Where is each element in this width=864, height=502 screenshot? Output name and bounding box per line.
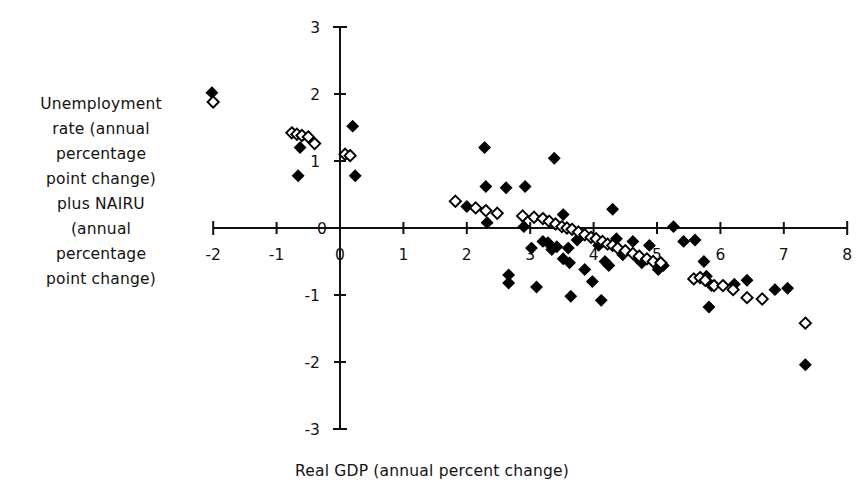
data-point-filled — [689, 234, 700, 245]
x-tick-label: 2 — [462, 246, 472, 264]
data-point-filled — [769, 284, 780, 295]
data-point-filled — [703, 301, 714, 312]
data-point-open — [492, 208, 503, 219]
x-tick-label: 1 — [398, 246, 408, 264]
x-tick-label: 6 — [715, 246, 725, 264]
y-tick-label: 1 — [310, 153, 320, 171]
data-point-filled — [668, 221, 679, 232]
data-point-filled — [503, 277, 514, 288]
data-point-filled — [347, 121, 358, 132]
data-point-open — [741, 292, 752, 303]
data-point-filled — [782, 283, 793, 294]
data-point-filled — [800, 359, 811, 370]
data-point-filled — [480, 181, 491, 192]
data-point-filled — [587, 276, 598, 287]
data-point-open — [757, 293, 768, 304]
data-point-filled — [479, 142, 490, 153]
y-tick-label: 3 — [310, 19, 320, 37]
data-point-open — [450, 196, 461, 207]
data-point-open — [480, 205, 491, 216]
data-point-filled — [531, 281, 542, 292]
data-point-open — [208, 96, 219, 107]
data-point-filled — [607, 204, 618, 215]
data-point-open — [800, 318, 811, 329]
x-tick-label: 0 — [335, 246, 345, 264]
data-point-filled — [518, 221, 529, 232]
data-point-filled — [549, 153, 560, 164]
y-tick-label: -1 — [305, 287, 320, 305]
y-tick-label: -2 — [305, 354, 320, 372]
y-tick-label: 0 — [317, 220, 327, 238]
data-point-filled — [481, 217, 492, 228]
data-point-filled — [520, 181, 531, 192]
y-tick-label: 2 — [310, 86, 320, 104]
scatter-chart-figure: Unemployment rate (annual percentage poi… — [0, 0, 864, 502]
data-point-open — [517, 210, 528, 221]
data-point-filled — [563, 243, 574, 254]
x-tick-label: 7 — [779, 246, 789, 264]
data-point-filled — [350, 170, 361, 181]
x-tick-label: -2 — [205, 246, 220, 264]
data-point-filled — [678, 236, 689, 247]
plot-area: -2-1012345678-3-2-10123 — [0, 0, 864, 502]
data-point-filled — [579, 264, 590, 275]
data-point-filled — [501, 182, 512, 193]
data-point-filled — [698, 256, 709, 267]
data-point-filled — [293, 170, 304, 181]
data-point-filled — [294, 142, 305, 153]
data-point-filled — [596, 295, 607, 306]
data-point-filled — [627, 236, 638, 247]
data-point-filled — [741, 275, 752, 286]
y-tick-label: -3 — [305, 421, 320, 439]
data-point-open — [470, 202, 481, 213]
x-tick-label: 8 — [842, 246, 852, 264]
x-tick-label: -1 — [269, 246, 284, 264]
data-point-filled — [558, 209, 569, 220]
data-point-filled — [565, 291, 576, 302]
x-axis-label: Real GDP (annual percent change) — [0, 462, 864, 480]
